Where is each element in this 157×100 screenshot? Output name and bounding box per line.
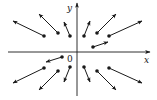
vector-arrow [107, 66, 142, 83]
arrow-shaft [13, 68, 44, 83]
vector-arrow [13, 66, 46, 83]
vector-arrow [13, 21, 46, 38]
arrow-shaft [64, 67, 70, 82]
tail-point-dot [82, 65, 86, 69]
tail-point-dot [42, 34, 46, 38]
vector-arrow [39, 69, 60, 90]
arrow-shaft [84, 67, 90, 82]
tail-point-dot [42, 66, 46, 70]
tail-point-dot [68, 65, 72, 69]
x-axis-label: x [144, 55, 149, 65]
tail-point-dot [68, 34, 72, 38]
tail-point-dot [107, 66, 111, 70]
vector-arrow [82, 21, 90, 38]
tail-point-dot [82, 34, 86, 38]
vector-arrow [46, 55, 64, 62]
tail-point-dot [60, 55, 64, 59]
arrow-shaft [109, 21, 142, 36]
vector-field-diagram: y x 0 [0, 0, 157, 100]
tail-point-dot [95, 31, 99, 35]
tail-point-dot [95, 69, 99, 73]
y-axis-label: y [66, 3, 73, 13]
tail-point-dot [56, 69, 60, 73]
origin-label: 0 [67, 54, 73, 64]
tail-point-dot [107, 34, 111, 38]
vector-arrow [64, 65, 72, 82]
arrow-shaft [109, 68, 142, 83]
axes: y x 0 [8, 3, 150, 96]
tail-point-dot [56, 31, 60, 35]
vector-arrow [91, 42, 108, 49]
arrow-shaft [84, 21, 90, 36]
vector-arrow [95, 69, 116, 90]
arrow-shaft [97, 71, 116, 90]
arrow-shaft [13, 21, 44, 36]
arrow-shaft [39, 14, 58, 33]
arrow-shaft [97, 14, 116, 33]
vector-arrow [95, 14, 116, 35]
vector-arrow [107, 21, 142, 38]
vector-arrow [39, 14, 60, 35]
tail-point-dot [91, 45, 95, 49]
vector-arrow [64, 22, 72, 38]
arrow-shaft [46, 57, 62, 62]
arrow-shaft [93, 42, 108, 47]
vector-arrow [82, 65, 90, 82]
arrow-shaft [39, 71, 58, 90]
arrow-shaft [64, 22, 70, 36]
